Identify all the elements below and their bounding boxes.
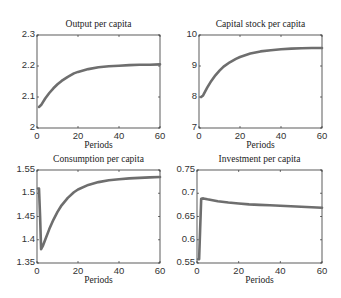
x-tick-label: 40	[268, 265, 292, 276]
y-tick-label: 0.6	[163, 233, 195, 244]
y-tick-label: 2.3	[3, 28, 35, 39]
series-line	[201, 48, 322, 97]
y-tick-label: 2.1	[3, 90, 35, 101]
y-tick-label: 1.35	[3, 256, 35, 267]
y-tick-label: 2.2	[3, 59, 35, 70]
y-tick-label: 0.55	[163, 256, 195, 267]
y-tick-label: 1.4	[3, 233, 35, 244]
y-tick-label: 9	[165, 59, 197, 70]
y-tick-label: 1.5	[3, 186, 35, 197]
y-tick-label: 0.7	[163, 186, 195, 197]
x-tick-label: 40	[107, 265, 131, 276]
series-line	[38, 177, 160, 249]
series-line	[39, 64, 160, 107]
x-tick-label: 60	[310, 130, 334, 141]
x-tick-label: 40	[269, 130, 293, 141]
x-tick-label: 20	[66, 265, 90, 276]
x-tick-label: 20	[227, 265, 251, 276]
x-tick-label: 20	[66, 130, 90, 141]
y-tick-label: 8	[165, 90, 197, 101]
y-tick-label: 2	[3, 121, 35, 132]
x-tick-label: 60	[310, 265, 334, 276]
x-tick-label: 20	[228, 130, 252, 141]
y-tick-label: 0.65	[163, 210, 195, 221]
y-tick-label: 0.75	[163, 163, 195, 174]
axes-frame	[197, 170, 322, 263]
y-tick-label: 10	[165, 28, 197, 39]
x-tick-label: 40	[107, 130, 131, 141]
y-tick-label: 7	[165, 121, 197, 132]
axes-frame	[37, 35, 160, 128]
y-tick-label: 1.55	[3, 163, 35, 174]
series-line	[198, 198, 322, 259]
plot-canvas	[0, 0, 341, 298]
y-tick-label: 1.45	[3, 210, 35, 221]
